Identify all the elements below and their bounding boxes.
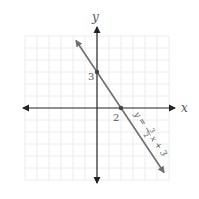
axes [23,27,175,183]
x-axis-label: x [181,101,188,115]
y-axis-label: y [91,10,99,24]
y-intercept-label: 3 [88,71,94,82]
coordinate-graph: x y 3 2 y = − 3 2 x + 3 [0,0,199,199]
y-intercept-point [95,70,99,74]
graph-line [97,72,164,173]
x-intercept-point [119,106,123,110]
x-intercept-label: 2 [113,112,119,123]
graph-line [76,41,97,73]
